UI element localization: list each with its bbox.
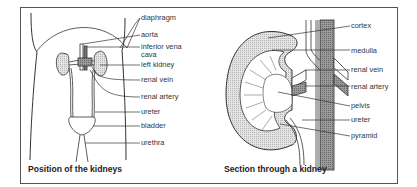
label-cortex: cortex	[351, 22, 371, 30]
body-outline	[30, 13, 127, 160]
label-diaphragm: diaphragm	[141, 14, 176, 22]
major-vessels	[69, 44, 94, 70]
label-urethra: urethra	[141, 139, 164, 147]
label-pyramid: pyramid	[351, 132, 377, 140]
label-cava: cava	[141, 51, 157, 59]
label-left-kidney: left kidney	[141, 61, 174, 69]
label-renal-artery: renal artery	[141, 93, 178, 101]
label-renal-vein-section: renal vein	[351, 66, 383, 74]
caption-section-through-kidney: Section through a kidney	[224, 164, 327, 174]
label-ureter: ureter	[141, 108, 160, 116]
label-pelvis: pelvis	[351, 102, 370, 110]
label-bladder: bladder	[141, 122, 166, 130]
label-ureter-section: ureter	[351, 116, 370, 124]
great-vessels-section	[292, 20, 348, 170]
label-aorta: aorta	[141, 31, 158, 39]
kidney-section	[226, 31, 304, 165]
label-renal-artery-section: renal artery	[351, 83, 388, 91]
ureters-bladder	[69, 68, 96, 162]
label-renal-vein: renal vein	[141, 76, 173, 84]
label-medulla: medulla	[351, 47, 377, 55]
caption-position-of-kidneys: Position of the kidneys	[28, 164, 122, 174]
